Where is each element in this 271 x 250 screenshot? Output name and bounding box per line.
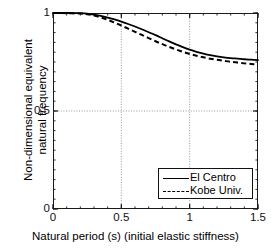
x-axis-label: Natural period (s) (initial elastic stif… bbox=[0, 230, 271, 243]
legend-entry-kobe-univ: Kobe Univ. bbox=[159, 184, 252, 197]
x-tick-label: 0 bbox=[50, 212, 56, 224]
x-tick-label: 1 bbox=[186, 212, 192, 224]
data-curves bbox=[53, 13, 258, 65]
series-line-el-centro bbox=[53, 13, 258, 60]
legend: El Centro Kobe Univ. bbox=[158, 168, 253, 199]
x-tick-label: 0.5 bbox=[113, 212, 129, 224]
legend-label-el-centro: El Centro bbox=[189, 172, 236, 183]
legend-swatch-dashed-line-icon bbox=[163, 186, 189, 196]
chart-figure: 00.511.5 00.51 Natural period (s) (initi… bbox=[0, 0, 271, 250]
legend-entry-el-centro: El Centro bbox=[159, 171, 252, 184]
legend-swatch-solid-line-icon bbox=[163, 173, 189, 183]
legend-label-kobe-univ: Kobe Univ. bbox=[189, 185, 243, 196]
y-axis-label-line1: Non-dimensional equivalent bbox=[21, 12, 35, 208]
y-axis-label: Non-dimensional equivalent natural frequ… bbox=[21, 12, 49, 208]
x-tick-label: 1.5 bbox=[250, 212, 266, 224]
y-axis-label-line2: natural frequency bbox=[35, 12, 49, 208]
